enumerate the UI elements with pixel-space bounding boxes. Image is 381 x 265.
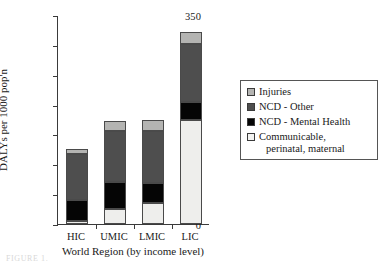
- bar-segment: [66, 200, 88, 221]
- x-category-label-umic: UMIC: [100, 231, 127, 242]
- bar-segment: [66, 149, 88, 153]
- bar-segment: [104, 131, 126, 182]
- bar-segment: [142, 120, 164, 132]
- y-tick-mark: [53, 135, 58, 136]
- bar-segment: [104, 182, 126, 209]
- bar-segment: [142, 203, 164, 224]
- chart-legend: InjuriesNCD - OtherNCD - Mental HealthCo…: [240, 80, 378, 160]
- x-category-label-hic: HIC: [67, 231, 85, 242]
- legend-label: NCD - Other: [259, 101, 314, 113]
- legend-item: NCD - Mental Health: [247, 116, 373, 128]
- legend-label: Communicable,perinatal, maternal: [259, 131, 345, 154]
- bar-hic: [66, 149, 88, 224]
- bar-segment: [104, 209, 126, 224]
- legend-swatch-ncd-mental-health-icon: [247, 118, 255, 126]
- bar-segment: [180, 102, 202, 120]
- x-axis-title: World Region (by income level): [62, 245, 204, 257]
- figure-container: DALYs per 1000 pop'n FIGURE 1. 350300250…: [0, 0, 381, 265]
- legend-swatch-injuries-icon: [247, 88, 255, 96]
- bar-lic: [180, 32, 202, 224]
- bar-segment: [66, 154, 88, 201]
- legend-item: NCD - Other: [247, 101, 373, 113]
- bar-segment: [180, 120, 202, 225]
- legend-label: NCD - Mental Health: [259, 116, 350, 128]
- x-tick-mark: [172, 224, 173, 229]
- bar-segment: [66, 221, 88, 224]
- legend-label: Injuries: [259, 86, 291, 98]
- plot-area: 350300250200150100500: [57, 16, 209, 225]
- bar-segment: [104, 121, 126, 132]
- y-tick-mark: [53, 106, 58, 107]
- x-tick-mark: [96, 224, 97, 229]
- y-tick-mark: [53, 165, 58, 166]
- bar-segment: [180, 44, 202, 102]
- bar-segment: [142, 183, 164, 203]
- y-tick-mark: [53, 16, 58, 17]
- legend-item: Injuries: [247, 86, 373, 98]
- x-category-label-lic: LIC: [182, 231, 199, 242]
- legend-label-line2: perinatal, maternal: [259, 143, 345, 155]
- y-tick-mark: [53, 76, 58, 77]
- y-tick-mark: [53, 195, 58, 196]
- bar-umic: [104, 121, 126, 224]
- bar-lmic: [142, 120, 164, 225]
- y-axis-title: DALYs per 1000 pop'n: [0, 69, 9, 171]
- x-category-label-lmic: LMIC: [139, 231, 165, 242]
- y-tick-mark: [53, 46, 58, 47]
- legend-swatch-communicable-icon: [247, 133, 255, 141]
- y-tick-mark: [53, 225, 58, 226]
- x-tick-mark: [134, 224, 135, 229]
- figure-caption-remnant: FIGURE 1.: [6, 254, 48, 263]
- bar-segment: [180, 32, 202, 44]
- legend-item: Communicable,perinatal, maternal: [247, 131, 373, 154]
- bar-segment: [142, 131, 164, 183]
- y-tick-label: 350: [185, 11, 201, 22]
- legend-swatch-ncd-other-icon: [247, 103, 255, 111]
